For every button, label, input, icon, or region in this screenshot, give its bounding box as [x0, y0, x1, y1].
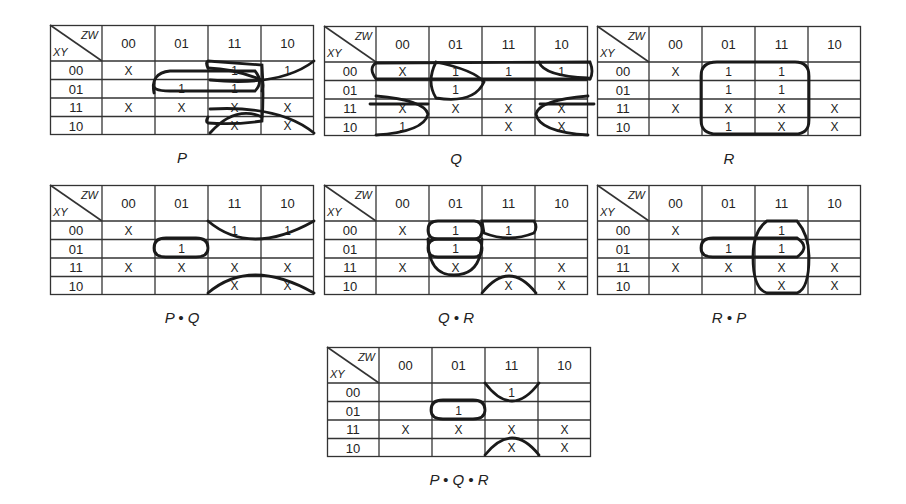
row-var-label: XY	[599, 47, 615, 59]
kmap-qr: ZWXY0001111000011110X111XXXXXX	[324, 185, 588, 295]
cell-value: X	[777, 279, 785, 293]
cell-value: X	[124, 261, 132, 275]
row-label: 10	[616, 279, 630, 294]
row-label: 01	[346, 404, 360, 419]
cell-value: X	[398, 224, 406, 238]
row-label: 01	[343, 242, 357, 257]
row-var-label: XY	[326, 206, 342, 218]
column-label: 00	[395, 37, 409, 52]
row-label: 00	[69, 63, 83, 78]
cell-value: X	[283, 261, 291, 275]
row-label: 01	[69, 82, 83, 97]
col-var-label: ZW	[627, 189, 647, 201]
row-label: 00	[346, 385, 360, 400]
row-label: 10	[616, 120, 630, 135]
kmap-pqr: ZWXY000111100001111011XXXXXX	[327, 347, 591, 457]
cell-value: X	[124, 64, 132, 78]
kmap-rp: ZWXY0001111000011110X111XXXXXX	[597, 185, 861, 295]
column-label: 10	[557, 358, 571, 373]
cell-value: X	[401, 423, 409, 437]
cell-value: X	[124, 224, 132, 238]
col-var-label: ZW	[357, 351, 377, 363]
cell-value: X	[283, 101, 291, 115]
row-label: 10	[343, 279, 357, 294]
row-label: 01	[69, 242, 83, 257]
cell-value: X	[671, 102, 679, 116]
column-label: 01	[451, 358, 465, 373]
column-label: 01	[721, 37, 735, 52]
row-var-label: XY	[326, 47, 342, 59]
cell-value: 1	[778, 242, 785, 256]
kmap-caption: Q • R	[324, 309, 588, 326]
column-label: 00	[395, 196, 409, 211]
cell-value: X	[671, 65, 679, 79]
row-label: 10	[343, 120, 357, 135]
cell-value: X	[454, 423, 462, 437]
column-label: 01	[174, 36, 188, 51]
column-label: 00	[121, 36, 135, 51]
column-label: 11	[502, 196, 516, 211]
column-label: 01	[174, 196, 188, 211]
row-label: 11	[346, 422, 360, 437]
cell-value: X	[230, 279, 238, 293]
cell-value: X	[560, 423, 568, 437]
cell-value: 1	[508, 386, 515, 400]
cell-value: X	[451, 102, 459, 116]
cell-value: X	[671, 261, 679, 275]
cell-value: 1	[452, 83, 459, 97]
cell-value: X	[230, 119, 238, 133]
cell-value: X	[557, 261, 565, 275]
cell-value: X	[671, 224, 679, 238]
cell-value: X	[507, 423, 515, 437]
cell-value: X	[724, 261, 732, 275]
row-label: 00	[343, 223, 357, 238]
cell-value: X	[504, 120, 512, 134]
cell-value: 1	[778, 224, 785, 238]
row-label: 11	[69, 100, 83, 115]
row-label: 11	[69, 260, 83, 275]
cell-value: 1	[452, 224, 459, 238]
row-label: 01	[616, 83, 630, 98]
row-var-label: XY	[599, 206, 615, 218]
column-label: 11	[228, 36, 242, 51]
col-var-label: ZW	[80, 29, 100, 41]
row-label: 00	[616, 64, 630, 79]
row-label: 11	[343, 260, 357, 275]
row-label: 01	[616, 242, 630, 257]
cell-value: X	[124, 101, 132, 115]
cell-value: 1	[505, 65, 512, 79]
cell-value: X	[398, 65, 406, 79]
cell-value: X	[560, 441, 568, 455]
cell-value: 1	[725, 83, 732, 97]
cell-value: 1	[455, 404, 462, 418]
cell-value: X	[507, 441, 515, 455]
column-label: 01	[448, 37, 462, 52]
kmap-p: ZWXY0001111000011110X1111XXXXXX	[50, 25, 314, 135]
column-label: 10	[554, 196, 568, 211]
kmap-caption: P	[50, 149, 314, 166]
cell-value: X	[451, 261, 459, 275]
column-label: 00	[668, 196, 682, 211]
col-var-label: ZW	[354, 189, 374, 201]
kmap-caption: P • Q • R	[327, 471, 591, 488]
cell-value: X	[777, 102, 785, 116]
column-label: 10	[827, 196, 841, 211]
row-var-label: XY	[52, 46, 68, 58]
row-label: 11	[616, 260, 630, 275]
row-var-label: XY	[329, 368, 345, 380]
row-label: 01	[343, 83, 357, 98]
cell-value: X	[504, 261, 512, 275]
cell-value: X	[830, 261, 838, 275]
cell-value: X	[177, 261, 185, 275]
row-var-label: XY	[52, 206, 68, 218]
row-label: 00	[616, 223, 630, 238]
column-label: 00	[668, 37, 682, 52]
cell-value: X	[557, 279, 565, 293]
cell-value: X	[283, 119, 291, 133]
cell-value: 1	[505, 224, 512, 238]
row-label: 10	[346, 441, 360, 456]
column-label: 11	[775, 196, 789, 211]
row-label: 10	[69, 119, 83, 134]
kmap-caption: R • P	[597, 309, 861, 326]
cell-value: 1	[778, 83, 785, 97]
